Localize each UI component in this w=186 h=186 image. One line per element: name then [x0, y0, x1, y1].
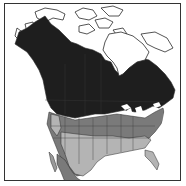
- range-dark: [15, 16, 175, 118]
- map-frame: [4, 3, 181, 181]
- north-america-map: [5, 4, 181, 181]
